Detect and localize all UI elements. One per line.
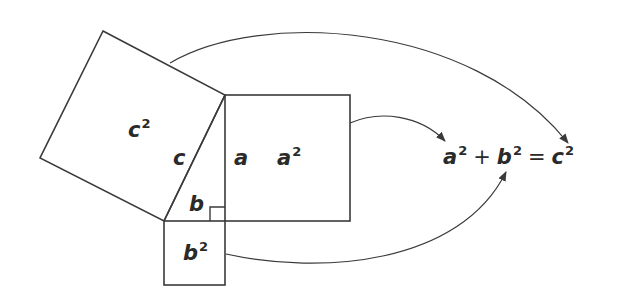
right-angle-marker (210, 207, 225, 221)
label-side-a: a (234, 148, 248, 169)
label-side-b: b (189, 194, 204, 215)
label-a-squared: a2 (277, 148, 301, 169)
equation: a2+b2=c2 (443, 147, 574, 168)
arrow-b2-to-equation (226, 172, 506, 263)
label-c-squared: c2 (128, 120, 151, 141)
label-b-squared: b2 (183, 243, 208, 264)
label-side-c: c (173, 148, 185, 169)
arrow-c2-to-equation (170, 33, 568, 143)
arrow-a2-to-equation (350, 116, 445, 141)
